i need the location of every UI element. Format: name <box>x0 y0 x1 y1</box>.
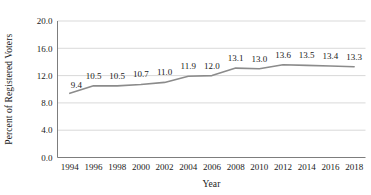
x-tick-label: 2012 <box>274 162 292 172</box>
x-axis-tick-labels: 1994199619982000200220042006200820102012… <box>61 162 364 172</box>
y-tick-label: 4.0 <box>41 125 53 135</box>
data-point-label: 10.5 <box>86 71 102 81</box>
x-tick-label: 2014 <box>298 162 317 172</box>
y-tick-label: 12.0 <box>37 71 53 81</box>
data-point-label: 11.9 <box>181 61 197 71</box>
axis-lines-group <box>58 21 366 158</box>
data-point-labels: 9.410.510.510.711.011.912.013.113.013.61… <box>71 50 363 91</box>
x-tick-label: 1998 <box>108 162 127 172</box>
data-point-label: 13.1 <box>228 53 244 63</box>
y-axis-title: Percent of Registered Voters <box>4 34 14 145</box>
line-chart: 0.04.08.012.016.020.0 199419961998200020… <box>0 0 371 195</box>
data-point-label: 10.7 <box>133 69 149 79</box>
x-tick-label: 1996 <box>85 162 104 172</box>
data-point-label: 10.5 <box>109 71 125 81</box>
data-point-label: 13.6 <box>275 50 291 60</box>
x-tick-label: 2016 <box>321 162 340 172</box>
data-point-label: 9.4 <box>71 80 83 90</box>
x-tick-label: 1994 <box>61 162 80 172</box>
chart-canvas: 0.04.08.012.016.020.0 199419961998200020… <box>0 0 371 195</box>
y-tick-label: 20.0 <box>37 16 53 26</box>
data-point-label: 12.0 <box>204 61 220 71</box>
x-tick-label: 2004 <box>179 162 198 172</box>
data-point-label: 13.5 <box>299 50 315 60</box>
x-tick-label: 2002 <box>156 162 174 172</box>
x-axis-title: Year <box>203 179 222 189</box>
x-tick-label: 2010 <box>250 162 269 172</box>
y-axis-tick-labels: 0.04.08.012.016.020.0 <box>37 16 53 163</box>
data-point-label: 13.3 <box>346 52 362 62</box>
y-tick-label: 16.0 <box>37 44 53 54</box>
y-tick-label: 8.0 <box>41 98 53 108</box>
data-point-label: 11.0 <box>157 67 173 77</box>
data-point-label: 13.4 <box>323 51 339 61</box>
x-tick-label: 2000 <box>132 162 151 172</box>
x-tick-label: 2008 <box>227 162 246 172</box>
x-tick-label: 2006 <box>203 162 222 172</box>
x-tick-label: 2018 <box>345 162 364 172</box>
y-tick-label: 0.0 <box>41 153 53 163</box>
data-point-label: 13.0 <box>251 54 267 64</box>
